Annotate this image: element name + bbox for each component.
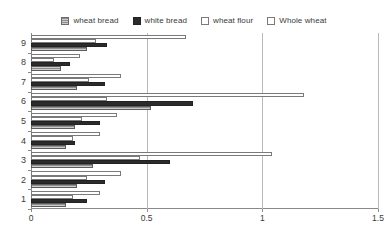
gridline-x-1 — [262, 33, 263, 209]
bar-wheat-bread-cat-3 — [31, 164, 93, 168]
legend-item-white-bread[interactable]: white bread — [133, 16, 187, 25]
x-tick-mark — [147, 209, 148, 212]
legend-label: white bread — [145, 16, 187, 25]
y-tick-mark — [28, 209, 31, 210]
legend-label: Whole wheat — [279, 16, 326, 25]
plot-area: 123456789 00.511.5 — [31, 33, 378, 209]
legend-swatch-wheat-flour-icon — [201, 17, 209, 25]
legend-swatch-white-bread-icon — [133, 17, 141, 25]
x-tick-mark — [262, 209, 263, 212]
legend-swatch-wheat-bread-icon — [61, 17, 69, 25]
gridline-x-0.5 — [147, 33, 148, 209]
legend-item-wheat-flour[interactable]: wheat flour — [201, 16, 253, 25]
legend-swatch-whole-wheat-icon — [267, 17, 275, 25]
x-tick-label: 0.5 — [141, 214, 153, 223]
y-tick-label: 7 — [21, 77, 26, 86]
y-tick-label: 8 — [21, 58, 26, 67]
bar-wheat-bread-cat-1 — [31, 203, 66, 207]
y-tick-label: 5 — [21, 117, 26, 126]
bar-wheat-bread-cat-6 — [31, 106, 151, 110]
chart-legend: wheat breadwhite breadwheat flourWhole w… — [0, 16, 388, 25]
legend-item-whole-wheat[interactable]: Whole wheat — [267, 16, 326, 25]
gridline-x-1.5 — [378, 33, 379, 209]
x-axis-line — [31, 208, 378, 209]
bar-wheat-bread-cat-4 — [31, 145, 66, 149]
bar-wheat-bread-cat-7 — [31, 86, 77, 90]
x-tick-label: 1 — [260, 214, 265, 223]
y-tick-label: 9 — [21, 38, 26, 47]
x-tick-mark — [378, 209, 379, 212]
bar-wheat-bread-cat-5 — [31, 125, 75, 129]
x-tick-mark — [31, 209, 32, 212]
legend-item-wheat-bread[interactable]: wheat bread — [61, 16, 118, 25]
bar-wheat-bread-cat-8 — [31, 66, 61, 70]
y-tick-label: 2 — [21, 175, 26, 184]
y-tick-label: 3 — [21, 156, 26, 165]
y-tick-label: 4 — [21, 136, 26, 145]
x-tick-label: 0 — [29, 214, 34, 223]
bar-wheat-bread-cat-9 — [31, 47, 87, 51]
legend-label: wheat bread — [73, 16, 118, 25]
chart-root: wheat breadwhite breadwheat flourWhole w… — [0, 0, 388, 235]
x-tick-label: 1.5 — [372, 214, 384, 223]
y-tick-label: 1 — [21, 195, 26, 204]
y-tick-label: 6 — [21, 97, 26, 106]
bar-wheat-bread-cat-2 — [31, 184, 77, 188]
legend-label: wheat flour — [213, 16, 253, 25]
